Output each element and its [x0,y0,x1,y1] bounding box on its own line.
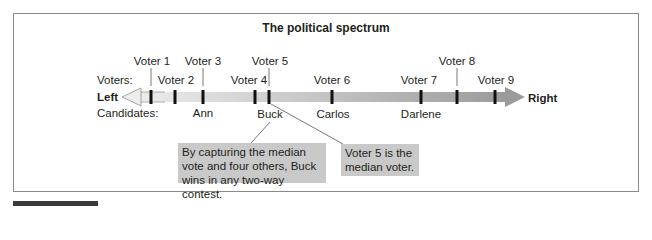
voter-3-label: Voter 3 [185,55,221,68]
buck-note-leader [251,122,270,143]
voter-4-label: Voter 4 [231,74,267,87]
buck-wins-note: By capturing the median vote and four ot… [178,143,326,183]
voter-2-label: Voter 2 [158,74,194,87]
right-axis-label: Right [528,92,557,105]
spectrum-arrow [122,87,525,107]
voter-6-label: Voter 6 [314,74,350,87]
candidate-buck-label: Buck [257,108,283,121]
buck-note-line-1: By capturing the median [182,145,322,159]
left-arrowhead-icon [122,88,141,106]
voter-5-label: Voter 5 [252,55,288,68]
buck-note-line-3: wins in any two-way contest. [182,173,322,201]
candidates-row-label: Candidates: [97,107,158,120]
voter-7-label: Voter 7 [401,74,437,87]
median-note-line-2: median voter. [345,160,415,174]
voters-row-label: Voters: [97,74,133,87]
median-voter-note: Voter 5 is the median voter. [341,144,419,176]
voter-8-label: Voter 8 [439,55,475,68]
median-note-line-1: Voter 5 is the [345,146,415,160]
voter-9-label: Voter 9 [478,74,514,87]
voter-1-label: Voter 1 [134,55,170,68]
right-arrowhead-icon [505,87,525,107]
candidate-carlos-label: Carlos [316,108,349,121]
candidate-darlene-label: Darlene [401,108,441,121]
left-axis-label: Left [97,91,118,104]
buck-note-line-2: vote and four others, Buck [182,159,322,173]
candidate-ann-label: Ann [193,107,213,120]
